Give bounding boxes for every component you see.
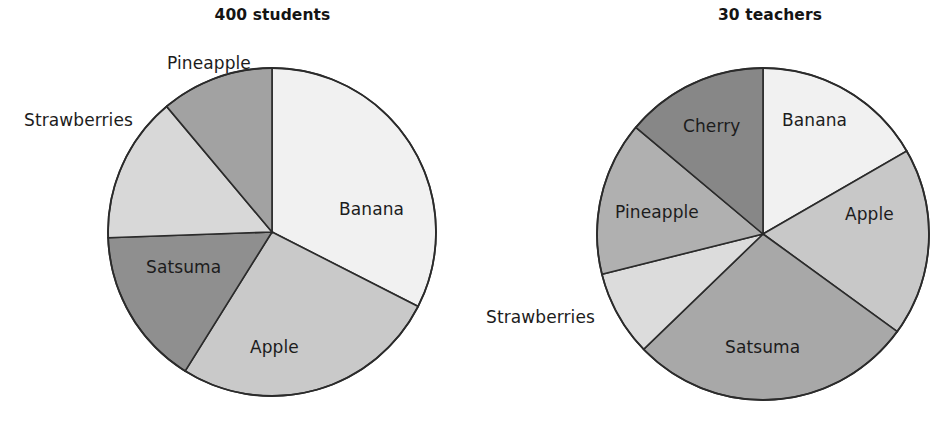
pie-label-teachers-pineapple: Pineapple xyxy=(615,202,699,222)
pie-label-teachers-strawberries: Strawberries xyxy=(486,307,595,327)
pie-label-teachers-satsuma: Satsuma xyxy=(725,337,800,357)
pie-charts-figure: 400 students 30 teachers xyxy=(0,0,951,442)
pie-label-students-apple: Apple xyxy=(250,337,299,357)
pie-label-students-banana: Banana xyxy=(339,199,404,219)
pie-label-teachers-banana: Banana xyxy=(782,110,847,130)
pie-label-students-pineapple: Pineapple xyxy=(167,53,251,73)
pie-label-students-strawberries: Strawberries xyxy=(24,110,133,130)
pie-label-teachers-apple: Apple xyxy=(845,204,894,224)
pie-svg xyxy=(0,0,951,442)
pie-label-teachers-cherry: Cherry xyxy=(683,116,740,136)
pie-label-students-satsuma: Satsuma xyxy=(146,257,221,277)
